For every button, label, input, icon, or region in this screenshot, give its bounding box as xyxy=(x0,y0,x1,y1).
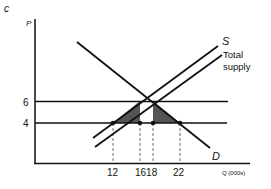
panel-label: c xyxy=(4,3,9,14)
chart-canvas: c P 6 4 12 1618 22 Q (000s) S Total supp… xyxy=(0,0,271,189)
y-tick-4: 4 xyxy=(23,118,29,129)
label-supply: supply xyxy=(223,61,251,72)
point-22 xyxy=(178,121,183,126)
y-axis-label: P xyxy=(26,19,32,28)
label-d: D xyxy=(212,150,220,162)
point-18 xyxy=(151,121,156,126)
y-tick-6: 6 xyxy=(23,97,29,108)
demand-curve xyxy=(77,42,210,148)
point-16 xyxy=(138,121,143,126)
point-12 xyxy=(111,121,116,126)
x-tick-12: 12 xyxy=(107,167,119,178)
shaded-triangle-right xyxy=(153,101,180,123)
label-total: Total xyxy=(223,49,243,60)
x-tick-22: 22 xyxy=(173,167,185,178)
label-s: S xyxy=(222,35,230,47)
x-axis-label: Q (000s) xyxy=(222,170,245,176)
x-tick-1618: 1618 xyxy=(135,167,158,178)
